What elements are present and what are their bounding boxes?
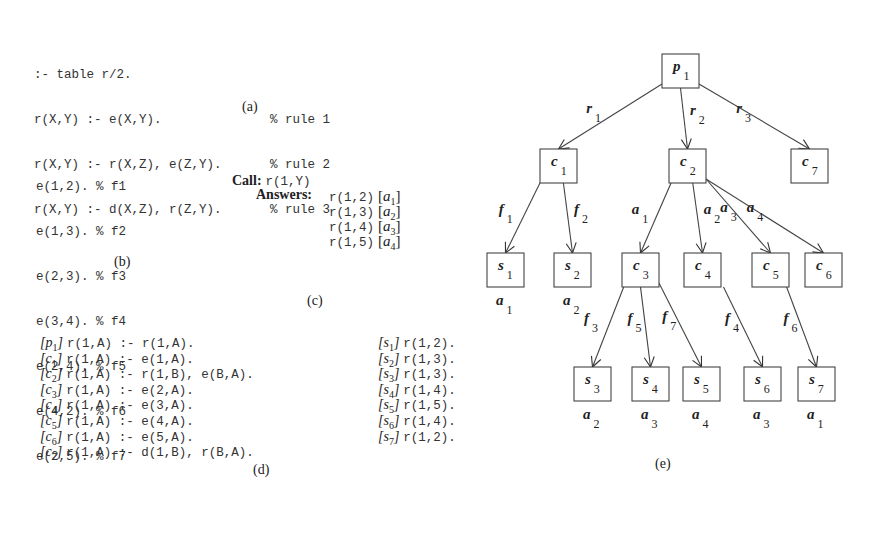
edge-label: a3	[720, 199, 737, 224]
panel-e-caption: (e)	[655, 456, 671, 472]
tree-node-c7: c7	[791, 149, 828, 183]
tree-edge-c3-s4	[641, 287, 651, 367]
edge-label: r3	[736, 100, 751, 125]
panel-e-tree: r1r2r3f1f2a1a2a3a4f3f5f7f4f6 p1c1c2c7s1a…	[0, 0, 877, 534]
edge-label: f5	[628, 310, 642, 335]
edge-label: f2	[574, 201, 588, 226]
edge-label: r2	[690, 102, 705, 127]
edge-label: a1	[632, 201, 649, 226]
tree-edge-c3-s5	[659, 283, 702, 367]
edge-label: a2	[704, 201, 721, 226]
tree-node-s2: s2a2	[554, 253, 591, 317]
tree-node-c1: c1	[540, 149, 577, 183]
node-answer-label: a2	[583, 406, 600, 431]
tree-edge-c2-c4	[693, 183, 703, 253]
tree-edge-c2-c6	[706, 179, 824, 253]
tree-node-s4: s4a3	[632, 367, 669, 431]
edge-label: r1	[586, 100, 601, 125]
node-answer-label: a3	[641, 406, 658, 431]
tree-edge-p1-c7	[699, 84, 810, 149]
edge-label: f1	[499, 201, 513, 226]
tree-nodes: p1c1c2c7s1a1s2a2c3c4c5c6s3a2s4a3s5a4s6a3…	[487, 54, 842, 431]
tree-node-p1: p1	[662, 54, 699, 88]
tree-node-s5: s5a4	[683, 367, 720, 431]
tree-node-c4: c4	[684, 253, 721, 287]
node-answer-label: a4	[692, 406, 709, 431]
tree-node-s1: s1a1	[487, 253, 524, 317]
node-answer-label: a3	[753, 406, 770, 431]
tree-node-s7: s7a1	[798, 367, 835, 431]
tree-edge-p1-c1	[559, 84, 663, 149]
tree-node-c3: c3	[622, 253, 659, 287]
edge-label: a4	[747, 199, 764, 224]
tree-node-s6: s6a3	[744, 367, 781, 431]
tree-edge-c1-s2	[563, 183, 572, 253]
edge-label: f6	[784, 310, 798, 335]
edge-label: f3	[584, 310, 598, 335]
node-answer-label: a2	[563, 292, 580, 317]
tree-edge-p1-c2	[681, 88, 688, 149]
tree-edges: r1r2r3f1f2a1a2a3a4f3f5f7f4f6	[499, 84, 824, 367]
node-answer-label: a1	[496, 292, 513, 317]
tree-node-c5: c5	[752, 253, 789, 287]
node-answer-label: a1	[807, 406, 824, 431]
tree-node-c6: c6	[805, 253, 842, 287]
tree-node-c2: c2	[669, 149, 706, 183]
tree-edge-c4-s6	[724, 287, 763, 367]
tree-node-s3: s3a2	[574, 367, 611, 431]
